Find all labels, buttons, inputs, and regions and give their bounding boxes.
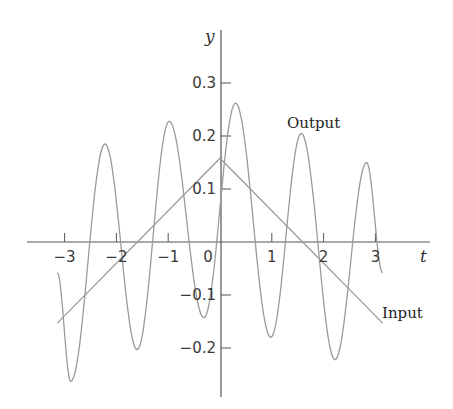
output-label: Output <box>287 114 340 132</box>
y-axis-label: y <box>204 26 215 46</box>
chart: −3−2−101230.30.20.1−0.1−0.2 y t Output I… <box>0 0 453 409</box>
y-tick-label: −0.1 <box>180 286 216 304</box>
x-tick-label: 3 <box>371 248 381 266</box>
y-tick-label: −0.2 <box>180 339 216 357</box>
x-tick-label: −1 <box>157 248 179 266</box>
series-input-line <box>57 158 382 323</box>
x-tick-label: 2 <box>319 248 329 266</box>
axes <box>27 30 430 397</box>
x-tick-label: −2 <box>105 248 127 266</box>
y-tick-label: 0.1 <box>192 180 216 198</box>
x-tick-label: −3 <box>54 248 76 266</box>
x-axis-label: t <box>420 246 427 266</box>
x-tick-label: 1 <box>267 248 277 266</box>
x-tick-label: 0 <box>203 248 213 266</box>
y-tick-label: 0.3 <box>192 74 216 92</box>
y-tick-label: 0.2 <box>192 127 216 145</box>
input-label: Input <box>382 304 423 322</box>
